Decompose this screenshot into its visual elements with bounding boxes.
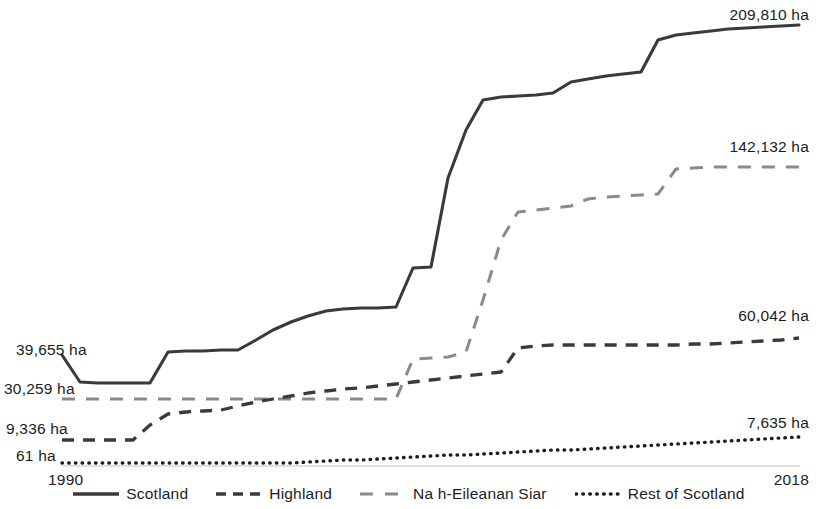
legend-swatch-solid-icon bbox=[73, 488, 119, 500]
series-line-rest-of-scotland bbox=[62, 437, 799, 463]
series-line-na-h-eileanan-siar bbox=[62, 167, 799, 399]
legend-swatch-dotted-icon bbox=[575, 488, 621, 500]
series-line-scotland bbox=[62, 25, 799, 383]
label-na-h-eileanan-siar-start: 30,259 ha bbox=[4, 381, 75, 397]
label-highland-end: 60,042 ha bbox=[738, 308, 809, 324]
legend-item-highland[interactable]: Highland bbox=[216, 486, 332, 502]
legend-item-na-h-eileanan-siar[interactable]: Na h-Eileanan Siar bbox=[360, 486, 547, 502]
legend-label-highland: Highland bbox=[269, 486, 332, 502]
label-scotland-end: 209,810 ha bbox=[729, 7, 809, 23]
plot-area: 209,810 ha 142,132 ha 60,042 ha 7,635 ha… bbox=[0, 0, 818, 470]
label-highland-start: 9,336 ha bbox=[6, 421, 68, 437]
legend-label-scotland: Scotland bbox=[126, 486, 188, 502]
label-rest-of-scotland-end: 7,635 ha bbox=[747, 415, 809, 431]
legend-label-na-h-eileanan-siar: Na h-Eileanan Siar bbox=[413, 486, 547, 502]
series-line-highland bbox=[62, 338, 799, 440]
chart-canvas bbox=[0, 0, 818, 470]
legend-item-rest-of-scotland[interactable]: Rest of Scotland bbox=[575, 486, 745, 502]
legend-label-rest-of-scotland: Rest of Scotland bbox=[628, 486, 745, 502]
legend-item-scotland[interactable]: Scotland bbox=[73, 486, 188, 502]
chart-legend: Scotland Highland Na h-Eileanan Siar Res… bbox=[0, 478, 818, 509]
label-rest-of-scotland-start: 61 ha bbox=[16, 448, 56, 464]
legend-swatch-dashed-icon bbox=[216, 488, 262, 500]
label-na-h-eileanan-siar-end: 142,132 ha bbox=[729, 139, 809, 155]
legend-swatch-longdash-icon bbox=[360, 488, 406, 500]
line-chart: 209,810 ha 142,132 ha 60,042 ha 7,635 ha… bbox=[0, 0, 818, 509]
label-scotland-start: 39,655 ha bbox=[16, 342, 87, 358]
